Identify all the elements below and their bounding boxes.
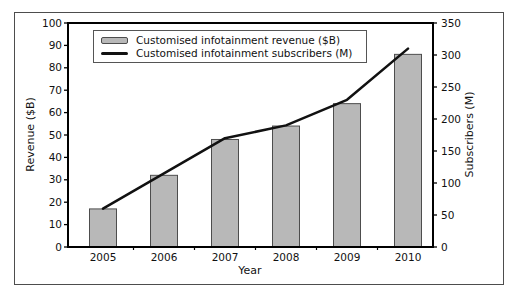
x-axis-label: Year (150, 264, 350, 277)
y-left-tick-label: 10 (49, 218, 62, 230)
legend-item-subscribers: Customised infotainment subscribers (M) (101, 47, 360, 59)
y-right-tick-label: 150 (441, 145, 461, 157)
y-left-tick-label: 40 (49, 151, 62, 163)
x-tick-label-2007: 2007 (212, 251, 239, 263)
bar-swatch-icon (101, 37, 128, 44)
y-left-tick-label: 100 (42, 17, 62, 29)
y-right-tick-label: 200 (441, 113, 461, 125)
bar-2006 (151, 175, 178, 247)
y-axis-label-right: Subscribers (M) (463, 35, 476, 235)
y-right-tick-label: 100 (441, 177, 461, 189)
y-left-tick-label: 60 (49, 106, 62, 118)
legend-label-revenue: Customised infotainment revenue ($B) (136, 34, 340, 46)
x-tick-label-2010: 2010 (395, 251, 422, 263)
subscribers-line (103, 49, 408, 209)
x-tick-label-2009: 2009 (334, 251, 361, 263)
chart-figure: 0102030405060708090100050100150200250300… (0, 0, 519, 299)
bar-2007 (212, 139, 239, 247)
y-left-tick-label: 90 (49, 39, 62, 51)
y-left-tick-label: 30 (49, 173, 62, 185)
y-right-tick-label: 250 (441, 81, 461, 93)
x-tick-label-2005: 2005 (90, 251, 117, 263)
y-left-tick-label: 80 (49, 61, 62, 73)
legend-label-subscribers: Customised infotainment subscribers (M) (136, 47, 352, 59)
y-right-tick-label: 0 (441, 241, 448, 253)
bar-2005 (90, 209, 117, 247)
y-axis-label-left: Revenue ($B) (24, 35, 37, 235)
x-tick-label-2008: 2008 (273, 251, 300, 263)
bar-2009 (334, 104, 361, 247)
y-right-tick-label: 300 (441, 49, 461, 61)
y-left-tick-label: 0 (55, 241, 62, 253)
bar-2008 (273, 126, 300, 247)
x-tick-label-2006: 2006 (151, 251, 178, 263)
bar-2010 (395, 54, 422, 247)
y-left-tick-label: 70 (49, 84, 62, 96)
legend: Customised infotainment revenue ($B) Cus… (93, 30, 367, 63)
y-left-tick-label: 50 (49, 129, 62, 141)
legend-item-revenue: Customised infotainment revenue ($B) (101, 34, 360, 46)
line-swatch-icon (101, 52, 128, 55)
y-right-tick-label: 350 (441, 17, 461, 29)
y-left-tick-label: 20 (49, 196, 62, 208)
y-right-tick-label: 50 (441, 209, 454, 221)
